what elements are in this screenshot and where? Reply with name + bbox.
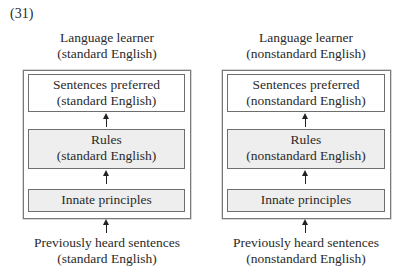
sentences-preferred-text: Sentences preferred (standard English) [28, 77, 185, 109]
input-label-line1: Previously heard sentences [212, 235, 400, 251]
input-label-line2: (standard English) [13, 251, 201, 267]
arrow-up-icon [305, 224, 306, 233]
sentences-preferred-line1: Sentences preferred [28, 77, 185, 93]
learner-label: Language learner (standard English) [23, 30, 191, 62]
learner-label-line2: (nonstandard English) [222, 46, 390, 62]
innate-principles-text: Innate principles [227, 192, 385, 208]
arrow-up-icon [106, 175, 107, 184]
learner-label-line1: Language learner [222, 30, 390, 46]
sentences-preferred-text: Sentences preferred (nonstandard English… [227, 77, 385, 109]
sentences-preferred-line2: (standard English) [28, 93, 185, 109]
example-number: (31) [10, 6, 33, 22]
input-label-line2: (nonstandard English) [212, 251, 400, 267]
arrow-up-icon [106, 118, 107, 127]
input-label-line1: Previously heard sentences [13, 235, 201, 251]
innate-principles-text: Innate principles [28, 192, 185, 208]
rules-line1: Rules [28, 132, 185, 148]
sentences-preferred-line1: Sentences preferred [227, 77, 385, 93]
input-label: Previously heard sentences (nonstandard … [212, 235, 400, 267]
rules-line2: (nonstandard English) [227, 148, 385, 164]
learner-label-line2: (standard English) [23, 46, 191, 62]
sentences-preferred-line2: (nonstandard English) [227, 93, 385, 109]
rules-text: Rules (nonstandard English) [227, 132, 385, 164]
arrow-up-icon [305, 175, 306, 184]
rules-line1: Rules [227, 132, 385, 148]
rules-text: Rules (standard English) [28, 132, 185, 164]
input-label: Previously heard sentences (standard Eng… [13, 235, 201, 267]
arrow-up-icon [305, 118, 306, 127]
arrow-up-icon [106, 224, 107, 233]
learner-label-line1: Language learner [23, 30, 191, 46]
rules-line2: (standard English) [28, 148, 185, 164]
learner-label: Language learner (nonstandard English) [222, 30, 390, 62]
